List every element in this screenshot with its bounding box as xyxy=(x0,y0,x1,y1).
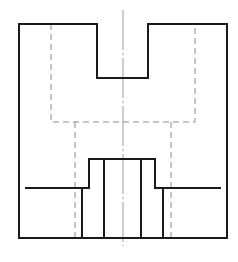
technical-drawing xyxy=(0,0,238,262)
